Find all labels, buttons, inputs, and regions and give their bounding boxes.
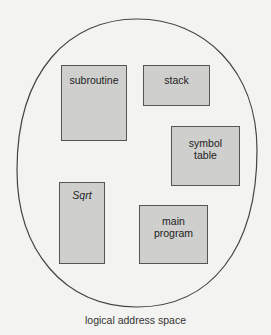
- segment-label: subroutine: [62, 74, 126, 86]
- segment-main-program: main program: [139, 205, 208, 264]
- segment-symbol-table: symbol table: [171, 126, 240, 186]
- segment-sqrt: Sqrt: [59, 182, 105, 264]
- segment-label-line1: symbol: [172, 137, 239, 149]
- segment-subroutine: subroutine: [61, 65, 127, 141]
- segment-label-line2: table: [172, 149, 239, 161]
- segment-label: Sqrt: [60, 189, 104, 201]
- segment-label-line1: main: [140, 215, 207, 227]
- diagram-caption: logical address space: [0, 314, 271, 326]
- segment-label-line2: program: [140, 227, 207, 239]
- segment-label: stack: [144, 74, 209, 86]
- segment-stack: stack: [143, 65, 210, 106]
